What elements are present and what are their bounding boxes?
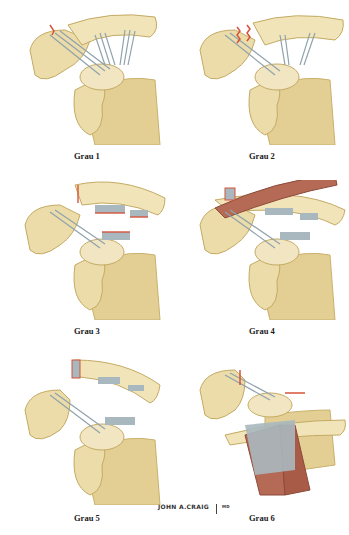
panel-grade-5: Grau 5	[10, 355, 180, 525]
panel-grade-4: Grau 4	[185, 180, 349, 350]
panel-grade-2: Grau 2	[185, 5, 349, 175]
grade-label: Grau 2	[249, 151, 275, 161]
shoulder-illustration-grade-1	[10, 5, 180, 145]
panel-grade-3: Grau 3	[10, 180, 180, 350]
grade-label: Grau 6	[249, 513, 275, 523]
panel-grade-1: Grau 1	[10, 5, 180, 175]
grade-label: Grau 5	[74, 513, 100, 523]
artist-signature: JOHN A.CRAIG	[158, 503, 209, 510]
shoulder-illustration-grade-2	[185, 5, 349, 145]
grade-label: Grau 3	[74, 326, 100, 336]
grade-label: Grau 4	[249, 326, 275, 336]
panel-grade-6: Grau 6	[185, 355, 349, 525]
shoulder-illustration-grade-4	[185, 180, 349, 320]
shoulder-illustration-grade-6	[185, 355, 349, 505]
shoulder-illustration-grade-5	[10, 355, 180, 505]
grade-label: Grau 1	[74, 151, 100, 161]
artist-signature-suffix: MD	[222, 504, 230, 509]
signature-underline	[216, 504, 217, 514]
shoulder-illustration-grade-3	[10, 180, 180, 320]
